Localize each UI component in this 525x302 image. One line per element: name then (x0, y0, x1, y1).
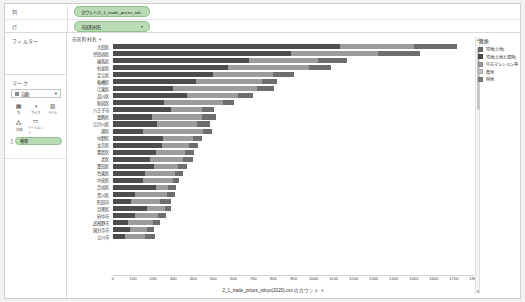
bar-segment[interactable] (291, 51, 377, 56)
chevron-down-icon[interactable]: ▾ (55, 91, 57, 96)
bar-row[interactable] (113, 85, 474, 92)
bar-row[interactable] (113, 219, 474, 226)
bar-row[interactable] (113, 50, 474, 57)
bar-row[interactable] (113, 191, 474, 198)
bar-row[interactable] (113, 135, 474, 142)
marks-color-field-row[interactable]: ⣿ 種類 (10, 137, 62, 145)
bar-segment[interactable] (156, 185, 168, 190)
bar-segment[interactable] (130, 227, 147, 232)
legend-item[interactable]: 農地 (478, 69, 516, 75)
marks-color-field-pill[interactable]: 種類 (15, 137, 62, 145)
bar-segment[interactable] (165, 206, 171, 211)
bar-row[interactable] (113, 113, 474, 120)
legend-item[interactable]: 宅地(土地と建物) (478, 54, 516, 60)
bar-segment[interactable] (128, 220, 153, 225)
rows-pill[interactable]: 市区町村名 ▾ (74, 21, 150, 32)
bar-segment[interactable] (131, 199, 160, 204)
scroll-down-icon[interactable]: ▼ (476, 289, 479, 294)
y-axis-header[interactable]: 市区町村名▾ (72, 36, 128, 42)
marks-detail-button[interactable]: ⁂ 詳細 (11, 118, 27, 134)
bar-segment[interactable] (147, 206, 165, 211)
bar-segment[interactable] (238, 93, 253, 98)
bar-segment[interactable] (414, 44, 457, 49)
chevron-down-icon[interactable]: ▾ (321, 288, 323, 293)
bar-segment[interactable] (113, 143, 162, 148)
x-axis-title[interactable]: 2_1_trade_prices_tokyo(2020).csv のカウント▾ (72, 287, 474, 293)
bar-segment[interactable] (125, 234, 145, 239)
bar-segment[interactable] (145, 171, 175, 176)
bar-segment[interactable] (197, 121, 210, 126)
bar-row[interactable] (113, 43, 474, 50)
bar-segment[interactable] (262, 79, 277, 84)
bar-segment[interactable] (113, 164, 154, 169)
marks-color-button[interactable]: ▦ 色 (11, 101, 27, 117)
columns-shelf-dropzone[interactable]: カウント(2_1_trade_prices_tok.. (67, 5, 520, 19)
bar-row[interactable] (113, 92, 474, 99)
bar-row[interactable] (113, 205, 474, 212)
columns-shelf[interactable]: 列 カウント(2_1_trade_prices_tok.. (5, 5, 520, 19)
bar-segment[interactable] (167, 192, 175, 197)
bar-segment[interactable] (223, 100, 234, 105)
bar-segment[interactable] (378, 51, 420, 56)
bar-segment[interactable] (185, 150, 194, 155)
bar-row[interactable] (113, 212, 474, 219)
bar-row[interactable] (113, 99, 474, 106)
bar-row[interactable] (113, 184, 474, 191)
bar-segment[interactable] (113, 157, 150, 162)
bar-row[interactable] (113, 78, 474, 85)
bar-segment[interactable] (113, 171, 145, 176)
chevron-down-icon[interactable]: ▾ (99, 37, 101, 42)
bar-row[interactable] (113, 163, 474, 170)
filters-card[interactable]: フィルター (5, 33, 66, 75)
bar-row[interactable] (113, 57, 474, 64)
bar-segment[interactable] (171, 107, 202, 112)
bar-segment[interactable] (113, 51, 291, 56)
bar-segment[interactable] (113, 65, 228, 70)
bar-segment[interactable] (318, 58, 347, 63)
bar-segment[interactable] (175, 171, 183, 176)
bar-segment[interactable] (113, 72, 213, 77)
bar-segment[interactable] (135, 192, 167, 197)
bar-row[interactable] (113, 170, 474, 177)
bar-segment[interactable] (113, 199, 131, 204)
bar-row[interactable] (113, 198, 474, 205)
bar-row[interactable] (113, 71, 474, 78)
bar-segment[interactable] (162, 143, 189, 148)
bar-segment[interactable] (113, 185, 156, 190)
bar-segment[interactable] (193, 136, 202, 141)
marks-label-button[interactable]: ▥ ラベル (45, 101, 61, 117)
bar-row[interactable] (113, 121, 474, 128)
bar-row[interactable] (113, 106, 474, 113)
bar-segment[interactable] (113, 93, 187, 98)
bar-row[interactable] (113, 64, 474, 71)
bar-row[interactable] (113, 156, 474, 163)
bar-segment[interactable] (309, 65, 331, 70)
bar-segment[interactable] (113, 227, 130, 232)
bar-row[interactable] (113, 226, 474, 233)
bar-segment[interactable] (113, 107, 171, 112)
bar-segment[interactable] (143, 178, 173, 183)
bar-segment[interactable] (152, 114, 202, 119)
legend-item[interactable]: 中古マンション等 (478, 61, 516, 67)
bar-segment[interactable] (113, 136, 163, 141)
bar-segment[interactable] (113, 192, 135, 197)
mark-type-select[interactable]: 自動 ▾ (11, 89, 61, 98)
bar-segment[interactable] (173, 178, 179, 183)
bar-segment[interactable] (160, 199, 171, 204)
bar-row[interactable] (113, 233, 474, 240)
bar-segment[interactable] (147, 227, 154, 232)
bar-segment[interactable] (257, 86, 274, 91)
bar-segment[interactable] (163, 136, 193, 141)
bar-segment[interactable] (196, 79, 262, 84)
chevron-down-icon[interactable]: ▾ (141, 24, 143, 29)
bar-segment[interactable] (187, 93, 238, 98)
bar-segment[interactable] (113, 150, 156, 155)
bar-segment[interactable] (113, 234, 125, 239)
bar-segment[interactable] (273, 72, 294, 77)
bar-segment[interactable] (202, 107, 214, 112)
bar-segment[interactable] (113, 206, 147, 211)
marks-size-button[interactable]: ◑ サイズ (28, 101, 44, 117)
legend-item[interactable]: 宅地(土地) (478, 46, 516, 52)
bar-segment[interactable] (213, 72, 273, 77)
bar-segment[interactable] (203, 129, 212, 134)
